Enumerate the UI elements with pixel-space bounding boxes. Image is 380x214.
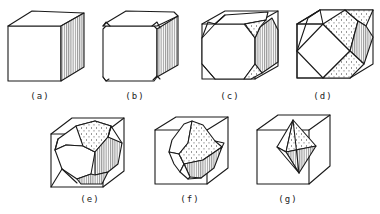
- crystal-edge: [51, 169, 62, 187]
- panel-label: (g): [278, 194, 297, 204]
- panel-label: (f): [180, 194, 199, 204]
- cube-outline: [207, 117, 228, 130]
- crystal-face: [157, 16, 178, 77]
- panel-e: (e): [51, 118, 124, 204]
- panel-d: (d): [297, 10, 373, 101]
- crystal-face: [202, 24, 255, 79]
- panel-label: (a): [30, 91, 49, 101]
- cube-outline: [309, 115, 330, 130]
- crystal-face: [103, 26, 157, 81]
- panel-b: (b): [103, 11, 178, 101]
- figure-panels: (a)(b)(c)(d)(e)(f)(g): [8, 10, 373, 204]
- panel-label: (b): [125, 91, 144, 101]
- crystal-truncation-diagram: (a)(b)(c)(d)(e)(f)(g): [0, 0, 380, 214]
- panel-label: (d): [313, 91, 332, 101]
- panel-g: (g): [257, 115, 330, 204]
- crystal-face: [8, 26, 61, 81]
- panel-f: (f): [155, 117, 228, 204]
- panel-c: (c): [202, 11, 278, 101]
- crystal-face: [55, 145, 95, 179]
- crystal-edge: [188, 178, 201, 179]
- panel-label: (e): [80, 194, 99, 204]
- panel-a: (a): [8, 11, 84, 101]
- panel-label: (c): [220, 91, 239, 101]
